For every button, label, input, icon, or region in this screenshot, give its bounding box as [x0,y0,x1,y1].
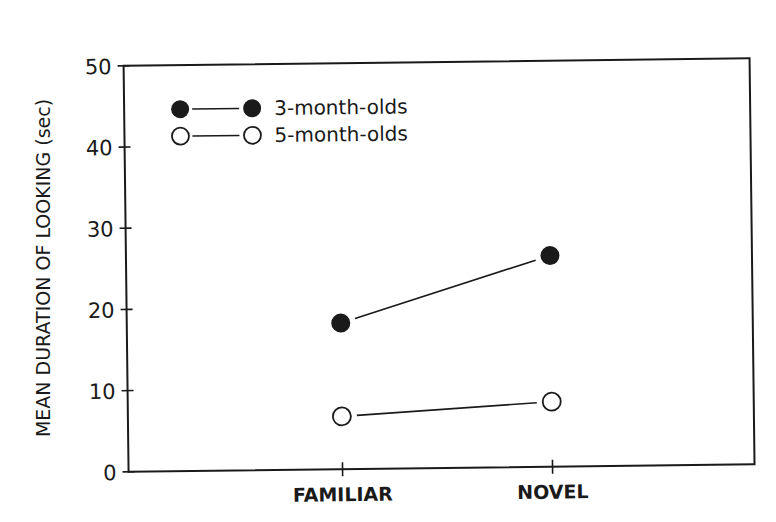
filled-circle-marker-icon [171,100,189,118]
series-5-month-olds [333,393,561,426]
open-circle-marker-icon [172,128,189,145]
legend-line [192,135,239,136]
series-group [330,246,561,426]
open-circle-marker-icon [543,393,561,411]
y-tick-label: 50 [85,55,112,79]
y-tick-label: 0 [103,461,117,485]
legend-label: 3-month-olds [274,94,408,120]
y-tick-label: 20 [88,299,115,323]
legend-item-5-month-olds: 5-month-olds [172,121,408,148]
x-category-label: FAMILIAR [293,483,394,506]
y-tick-label: 40 [86,136,113,160]
filled-circle-marker-icon [331,313,350,332]
plot-area: 01020304050 FAMILIARNOVEL 3-month-olds 5… [85,47,755,508]
legend-line [192,108,239,109]
legend: 3-month-olds 5-month-olds [171,94,408,148]
series-line [354,260,536,318]
filled-circle-marker-icon [243,99,261,117]
y-tick-label: 30 [87,217,114,241]
y-tick-label: 10 [89,380,116,404]
open-circle-marker-icon [333,407,351,425]
series-line [357,403,537,416]
x-category-label: NOVEL [517,480,589,503]
legend-label: 5-month-olds [274,121,408,147]
open-circle-marker-icon [244,127,261,144]
chart-canvas: MEAN DURATION OF LOOKING (sec) 010203040… [0,0,776,522]
series-3-month-olds [330,246,560,333]
legend-item-3-month-olds: 3-month-olds [171,94,408,121]
filled-circle-marker-icon [540,246,559,265]
y-axis-title: MEAN DURATION OF LOOKING (sec) [32,99,54,437]
line-chart: MEAN DURATION OF LOOKING (sec) 010203040… [0,0,776,522]
